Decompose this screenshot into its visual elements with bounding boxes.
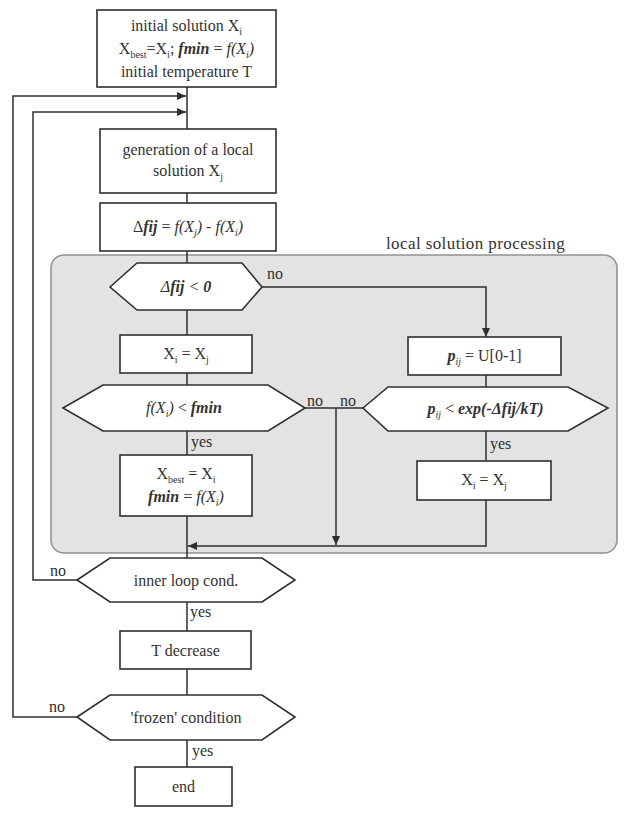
edge-label-frozen-yes: yes	[192, 743, 213, 759]
text: 0	[203, 278, 211, 295]
text: exp(-Δfij/kT)	[458, 400, 544, 417]
text: = X	[184, 465, 213, 482]
node-generate-local-solution: generation of a local solution Xj	[100, 129, 276, 193]
text: fij	[170, 278, 184, 295]
subscript: i	[239, 26, 242, 37]
text: <	[184, 278, 203, 295]
node-condition-delta-negative: Δfij < 0	[110, 263, 262, 310]
flowchart-canvas: local solution processing initial soluti…	[0, 0, 625, 821]
text: f(X	[174, 218, 194, 235]
edge-label-inner-yes: yes	[190, 604, 211, 620]
node-random-probability: pij = U[0-1]	[408, 337, 561, 375]
text: )	[249, 40, 254, 57]
edge-label-frozen-no: no	[49, 699, 65, 715]
edge-label-delta-no: no	[267, 266, 283, 282]
text: =	[157, 218, 174, 235]
subscript: i	[216, 497, 219, 508]
text: f(X	[146, 399, 166, 416]
node-condition-inner-loop: inner loop cond.	[77, 558, 295, 602]
node-text-line: Xi = Xj	[163, 343, 209, 366]
subscript: i	[167, 49, 170, 60]
text: =	[209, 40, 226, 57]
node-text-line: end	[172, 776, 195, 797]
edge-label-metropolis-yes: yes	[490, 436, 511, 452]
text: -	[202, 218, 215, 235]
node-text-line: T decrease	[151, 640, 220, 661]
group-label-local-processing: local solution processing	[386, 235, 565, 253]
node-text-line: Xbest = Xi	[156, 463, 215, 486]
text: fij	[143, 218, 157, 235]
node-text-line: Δfij < 0	[161, 276, 211, 297]
edge-label-metropolis-no: no	[340, 393, 356, 409]
text: f(X	[226, 40, 246, 57]
subscript: i	[235, 227, 238, 238]
subscript: ij	[435, 409, 441, 420]
node-text-line: pij < exp(-Δfij/kT)	[427, 398, 543, 421]
node-text-line: fmin = f(Xi)	[148, 486, 224, 509]
text: X	[163, 345, 175, 362]
text: =	[461, 347, 478, 364]
node-condition-frozen: 'frozen' condition	[77, 695, 295, 740]
node-update-best: Xbest = Xi fmin = f(Xi)	[120, 455, 252, 516]
node-text-line: initial temperature T	[121, 61, 252, 82]
text: = X	[475, 471, 504, 488]
text: Δ	[161, 278, 170, 295]
subscript: best	[168, 474, 184, 485]
text: fmin	[178, 40, 209, 57]
edge-label-fmin-yes: yes	[191, 434, 212, 450]
node-text-line: generation of a local	[122, 139, 253, 160]
text: <	[441, 400, 458, 417]
subscript: i	[213, 474, 216, 485]
text: fmin	[148, 488, 179, 505]
node-text-line: Δfij = f(Xj) - f(Xi)	[133, 216, 243, 239]
node-text-line: 'frozen' condition	[130, 707, 241, 728]
text: =	[179, 488, 196, 505]
node-accept-solution-left: Xi = Xj	[120, 335, 252, 373]
subscript: best	[130, 49, 146, 60]
node-text-line: solution Xj	[153, 160, 223, 183]
node-accept-solution-right: Xi = Xj	[417, 461, 551, 500]
node-end: end	[135, 767, 232, 806]
node-initialization: initial solution Xi Xbest=Xi; fmin = f(X…	[97, 10, 276, 87]
text: f(X	[196, 488, 216, 505]
subscript: i	[246, 49, 249, 60]
text: initial solution X	[131, 17, 239, 34]
node-text-line: initial solution Xi	[131, 15, 242, 38]
subscript: j	[220, 171, 223, 182]
text: X	[156, 465, 168, 482]
text: fmin	[191, 399, 222, 416]
text: f(X	[215, 218, 235, 235]
node-condition-metropolis: pij < exp(-Δfij/kT)	[363, 387, 608, 431]
edge-label-fmin-no: no	[307, 393, 323, 409]
text: =X	[147, 40, 168, 57]
node-text-line: Xbest=Xi; fmin = f(Xi)	[119, 38, 254, 61]
text: X	[119, 40, 131, 57]
subscript: j	[194, 227, 197, 238]
edge-label-inner-no: no	[50, 563, 66, 579]
subscript: ij	[455, 356, 461, 367]
node-condition-fmin: f(Xi) < fmin	[63, 385, 305, 431]
node-temperature-decrease: T decrease	[120, 631, 251, 669]
text: = X	[177, 345, 206, 362]
node-delta-computation: Δfij = f(Xj) - f(Xi)	[100, 203, 276, 251]
subscript: j	[206, 354, 209, 365]
text: )	[238, 218, 243, 235]
node-text-line: pij = U[0-1]	[447, 345, 521, 368]
text: U[0-1]	[478, 347, 522, 364]
text: X	[461, 471, 473, 488]
text: solution X	[153, 162, 220, 179]
node-text-line: Xi = Xj	[461, 469, 507, 492]
text: Δ	[133, 218, 143, 235]
subscript: j	[504, 480, 507, 491]
node-text-line: inner loop cond.	[134, 570, 238, 591]
node-text-line: f(Xi) < fmin	[146, 397, 222, 420]
text: )	[219, 488, 224, 505]
text: <	[174, 399, 191, 416]
